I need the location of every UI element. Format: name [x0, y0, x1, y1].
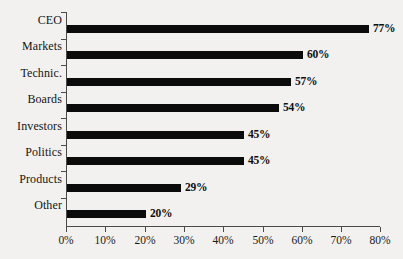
y-tick-3 [61, 92, 66, 93]
value-label-markets: 60% [307, 48, 329, 60]
x-tick-20 [145, 227, 146, 232]
x-tick-10 [105, 227, 106, 232]
category-label-markets: Markets [22, 40, 62, 53]
x-tick-40 [223, 227, 224, 232]
x-tick-30 [184, 227, 185, 232]
x-tick-label-40: 40% [203, 234, 243, 246]
bar-products [67, 184, 181, 192]
bar-technic [67, 78, 291, 86]
value-label-technic: 57% [295, 75, 317, 87]
bar-politics [67, 157, 244, 165]
x-tick-label-0: 0% [46, 234, 86, 246]
category-label-boards: Boards [27, 93, 62, 106]
x-tick-label-80: 80% [360, 234, 400, 246]
x-tick-label-20: 20% [125, 234, 165, 246]
x-tick-label-60: 60% [282, 234, 322, 246]
value-label-other: 20% [150, 207, 172, 219]
y-tick-1 [61, 39, 66, 40]
category-label-other: Other [34, 199, 62, 212]
value-label-boards: 54% [283, 101, 305, 113]
x-tick-70 [341, 227, 342, 232]
x-tick-80 [380, 227, 381, 232]
bar-boards [67, 104, 279, 112]
x-tick-0 [66, 227, 67, 232]
value-label-products: 29% [185, 181, 207, 193]
value-label-politics: 45% [248, 154, 270, 166]
x-tick-label-50: 50% [243, 234, 283, 246]
bar-other [67, 210, 146, 218]
y-tick-5 [61, 145, 66, 146]
bar-markets [67, 51, 303, 59]
y-tick-7 [61, 198, 66, 199]
value-label-investors: 45% [248, 128, 270, 140]
x-tick-label-30: 30% [164, 234, 204, 246]
x-tick-50 [263, 227, 264, 232]
bar-ceo [67, 25, 369, 33]
y-tick-2 [61, 65, 66, 66]
x-tick-label-70: 70% [321, 234, 361, 246]
category-label-investors: Investors [17, 120, 62, 133]
category-label-technic: Technic. [20, 67, 62, 80]
category-label-ceo: CEO [38, 14, 62, 27]
y-tick-4 [61, 118, 66, 119]
x-tick-label-10: 10% [85, 234, 125, 246]
y-tick-0 [61, 12, 66, 13]
y-axis-line [66, 12, 67, 227]
value-label-ceo: 77% [373, 22, 395, 34]
category-label-politics: Politics [25, 146, 62, 159]
bar-investors [67, 131, 244, 139]
x-tick-60 [302, 227, 303, 232]
y-tick-6 [61, 171, 66, 172]
category-label-products: Products [19, 173, 62, 186]
horizontal-bar-chart: CEO Markets Technic. Boards Investors Po… [0, 0, 403, 259]
